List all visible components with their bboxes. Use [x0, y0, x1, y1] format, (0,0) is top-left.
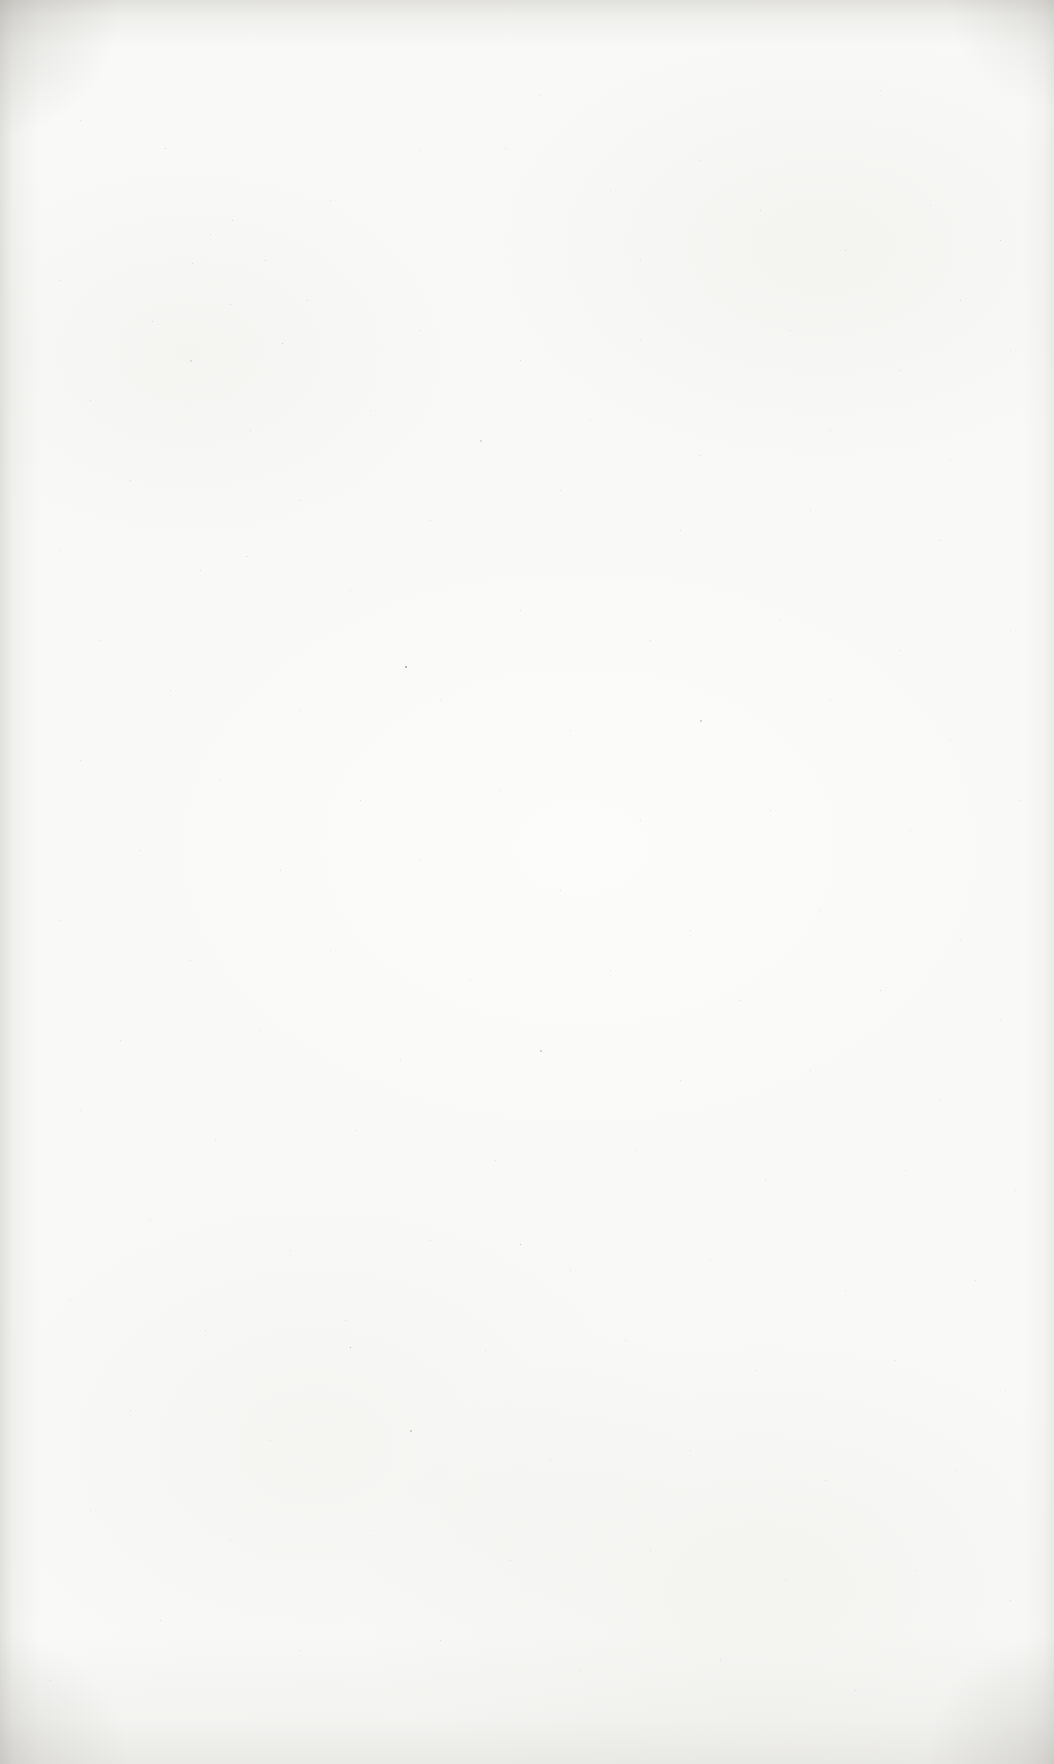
dust-speck [510, 1560, 511, 1561]
dust-speck [640, 260, 641, 261]
dust-speck [400, 1060, 401, 1061]
dust-speck [440, 1640, 441, 1641]
dust-speck [880, 990, 881, 991]
dust-speck [700, 455, 701, 456]
dust-speck [950, 460, 951, 461]
dust-speck [50, 1680, 51, 1681]
dust-speck [1010, 630, 1011, 631]
dust-speck [940, 540, 941, 541]
dust-speck [410, 1430, 412, 1432]
dust-speck [80, 760, 81, 761]
dust-speck [640, 340, 641, 341]
dust-speck [960, 300, 961, 301]
dust-speck [830, 700, 831, 701]
dust-speck [520, 610, 521, 611]
dust-speck [345, 1320, 346, 1321]
dust-speck [60, 280, 61, 281]
dust-speck [700, 160, 701, 161]
dust-speck [915, 1570, 916, 1571]
dust-speck [470, 980, 471, 981]
dust-speck [192, 263, 193, 264]
dust-speck [265, 260, 266, 261]
dust-speck [480, 440, 482, 442]
dust-speck [790, 330, 791, 331]
scanned-blank-page [0, 0, 1054, 1764]
paper-dust-specks [0, 0, 1054, 1764]
dust-speck [60, 920, 61, 921]
dust-speck [120, 1040, 121, 1041]
dust-speck [250, 430, 251, 431]
dust-speck [495, 1160, 496, 1161]
dust-speck [130, 1410, 131, 1411]
dust-speck [420, 150, 421, 151]
dust-speck [580, 1670, 581, 1671]
dust-speck [570, 1270, 571, 1271]
dust-speck [680, 1080, 681, 1081]
dust-speck [635, 1150, 636, 1151]
dust-speck [420, 330, 421, 331]
dust-speck [690, 930, 691, 931]
dust-speck [650, 1550, 651, 1551]
dust-speck [755, 1370, 756, 1371]
dust-speck [170, 690, 171, 691]
dust-speck [950, 740, 951, 741]
dust-speck [900, 370, 901, 371]
dust-speck [1010, 1600, 1011, 1601]
page-edge-shading [0, 0, 1054, 1764]
dust-speck [785, 1580, 786, 1581]
dust-speck [845, 250, 846, 251]
dust-speck [680, 530, 681, 531]
dust-speck [370, 410, 371, 411]
dust-speck [355, 1130, 356, 1131]
dust-speck [330, 950, 331, 951]
dust-speck [610, 190, 611, 191]
dust-speck [60, 550, 61, 551]
dust-speck [150, 1220, 151, 1221]
dust-speck [90, 1510, 91, 1511]
dust-speck [205, 1330, 206, 1331]
dust-speck [780, 620, 781, 621]
dust-speck [152, 321, 153, 322]
dust-speck [505, 148, 506, 149]
dust-speck [370, 1530, 371, 1531]
dust-speck [440, 700, 441, 701]
dust-speck [690, 1450, 691, 1451]
dust-speck [290, 1250, 291, 1251]
dust-speck [650, 640, 651, 641]
dust-speck [140, 850, 141, 851]
dust-speck [485, 1350, 486, 1351]
dust-speck [80, 1110, 81, 1111]
dust-speck [230, 1540, 231, 1541]
dust-speck [307, 300, 308, 301]
dust-speck [1010, 350, 1011, 351]
dust-speck [350, 590, 351, 591]
dust-speck [1000, 240, 1001, 241]
dust-speck [625, 1340, 626, 1341]
dust-speck [260, 1030, 261, 1031]
dust-speck [1000, 1020, 1001, 1021]
dust-speck [720, 1660, 721, 1661]
dust-speck [700, 720, 702, 722]
dust-speck [500, 790, 501, 791]
dust-speck [880, 90, 881, 91]
dust-speck [740, 1000, 741, 1001]
dust-speck [1015, 1190, 1016, 1191]
dust-speck [900, 650, 901, 651]
dust-speck [350, 1347, 351, 1348]
dust-speck [810, 510, 811, 511]
dust-speck [810, 1070, 811, 1071]
dust-speck [190, 960, 191, 961]
dust-speck [360, 800, 361, 801]
dust-speck [200, 570, 201, 571]
dust-speck [820, 910, 821, 911]
dust-speck [610, 970, 611, 971]
dust-speck [90, 400, 91, 401]
dust-speck [560, 890, 561, 891]
dust-speck [855, 1690, 856, 1691]
dust-speck [270, 1440, 271, 1441]
dust-speck [300, 500, 301, 501]
dust-speck [955, 1470, 956, 1471]
dust-speck [770, 810, 771, 811]
dust-speck [220, 780, 221, 781]
dust-speck [100, 640, 101, 641]
